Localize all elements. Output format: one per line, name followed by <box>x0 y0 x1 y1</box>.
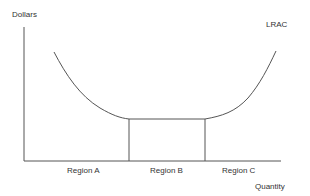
x-axis-label: Quantity <box>255 182 285 191</box>
region-c-label: Region C <box>222 166 255 175</box>
region-a-label: Region A <box>67 166 99 175</box>
y-axis-label: Dollars <box>12 10 37 19</box>
curve-label: LRAC <box>266 20 287 29</box>
lrac-curve <box>54 51 276 119</box>
region-b-label: Region B <box>150 166 183 175</box>
